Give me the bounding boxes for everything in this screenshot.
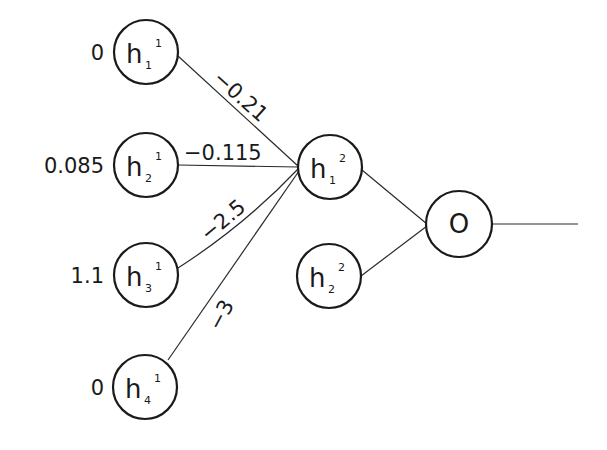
node-h21-sup: 1 — [155, 150, 162, 163]
edge-h12-o — [362, 170, 427, 224]
edge-h21-h12 — [178, 165, 298, 167]
node-h12-sup: 2 — [339, 152, 346, 165]
node-h21: h 2 1 0.085 — [44, 133, 178, 197]
node-h41-sup: 1 — [154, 372, 161, 385]
output-label: O — [449, 209, 469, 239]
node-h21-sub: 2 — [145, 172, 152, 185]
node-h31-value: 1.1 — [71, 264, 104, 288]
node-h41-sub: 4 — [144, 394, 151, 407]
weight-h21-h12: −0.115 — [184, 141, 262, 165]
node-h11-base: h — [126, 39, 142, 69]
node-h31: h 3 1 1.1 — [71, 243, 178, 307]
node-h31-sup: 1 — [155, 260, 162, 273]
node-h12-base: h — [310, 154, 326, 184]
node-h11-sub: 1 — [145, 59, 152, 72]
weight-labels: −0.21 −0.115 −2.5 −3 — [184, 66, 273, 334]
node-h12: h 1 2 — [298, 135, 362, 199]
node-h12-sub: 1 — [329, 174, 336, 187]
node-h41-value: 0 — [91, 376, 104, 400]
node-h31-sub: 3 — [145, 282, 152, 295]
node-h22-base: h — [309, 263, 325, 293]
node-h11: h 1 1 0 — [91, 20, 178, 84]
node-h22: h 2 2 — [297, 244, 361, 308]
node-h22-sub: 2 — [328, 283, 335, 296]
node-h41: h 4 1 0 — [91, 355, 177, 419]
node-h22-sup: 2 — [338, 261, 345, 274]
node-h41-base: h — [125, 374, 141, 404]
neural-network-diagram: −0.21 −0.115 −2.5 −3 h 1 1 0 h 2 1 0.085… — [0, 0, 607, 450]
node-h21-base: h — [126, 152, 142, 182]
node-h31-base: h — [126, 262, 142, 292]
layer-2: h 1 2 h 2 2 — [297, 135, 362, 308]
node-h11-value: 0 — [91, 41, 104, 65]
edge-h22-o — [361, 226, 427, 276]
weight-h31-h12: −2.5 — [196, 195, 250, 246]
node-h11-sup: 1 — [155, 37, 162, 50]
node-h21-value: 0.085 — [44, 154, 104, 178]
weight-h11-h12: −0.21 — [209, 66, 273, 127]
layer-1: h 1 1 0 h 2 1 0.085 h 3 1 1.1 h 4 1 0 — [44, 20, 178, 419]
output-node: O — [426, 191, 492, 257]
